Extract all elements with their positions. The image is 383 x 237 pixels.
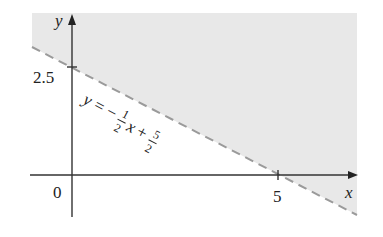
x-tick-label: 5 [273,187,282,206]
origin-label: 0 [53,183,62,202]
shaded-region [32,13,357,215]
y-axis-label: y [53,11,63,30]
svg-text:2: 2 [112,121,124,136]
x-axis-label: x [344,183,353,202]
inequality-graph: y x 2.5 5 0 y = − 1 2 x + 5 2 [0,0,383,237]
svg-text:5: 5 [151,127,163,142]
y-tick-label: 2.5 [33,68,54,87]
svg-text:2: 2 [143,141,155,156]
